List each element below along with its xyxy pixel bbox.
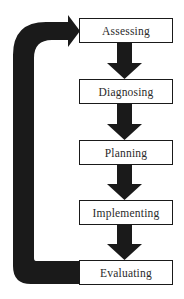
step-label: Evaluating — [100, 267, 152, 279]
step-label: Assessing — [102, 25, 150, 37]
down-arrow-icon — [107, 104, 142, 140]
feedback-loop-arrow-icon — [13, 15, 80, 284]
step-planning: Planning — [79, 140, 173, 165]
step-label: Diagnosing — [98, 86, 153, 98]
down-arrow-icon — [107, 164, 142, 200]
step-implementing: Implementing — [79, 200, 173, 225]
nursing-process-diagram: Assessing Diagnosing Planning Implementi… — [0, 0, 184, 299]
down-arrow-icon — [107, 224, 142, 260]
step-label: Planning — [105, 147, 148, 159]
down-arrow-icon — [107, 43, 142, 79]
step-label: Implementing — [93, 207, 160, 219]
step-assessing: Assessing — [79, 18, 173, 43]
step-diagnosing: Diagnosing — [79, 79, 173, 104]
step-evaluating: Evaluating — [79, 260, 173, 285]
